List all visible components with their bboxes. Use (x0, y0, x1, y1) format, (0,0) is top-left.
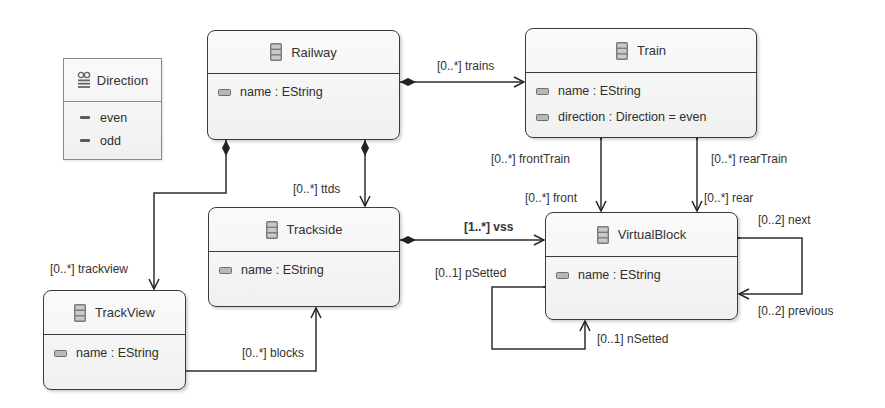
class-virtualblock[interactable]: VirtualBlock name : EString (545, 212, 738, 320)
class-railway[interactable]: Railway name : EString (207, 30, 400, 140)
class-attributes: name : EString (44, 335, 185, 365)
class-name: TrackView (95, 305, 155, 320)
label-ttds[interactable]: [0..*] ttds (293, 182, 340, 196)
label-psetted[interactable]: [0..1] pSetted (435, 266, 506, 280)
attribute-icon (536, 114, 549, 121)
attribute[interactable]: name : EString (54, 341, 185, 365)
enum-literals: even odd (64, 102, 161, 152)
label-vss[interactable]: [1..*] vss (464, 220, 513, 234)
class-attributes: name : EString (208, 74, 399, 104)
literal-icon (80, 139, 90, 142)
class-name: VirtualBlock (618, 227, 686, 242)
class-header: VirtualBlock (546, 213, 737, 257)
class-header: Railway (208, 31, 399, 74)
class-attributes: name : EString (546, 257, 737, 287)
attribute-icon (219, 267, 232, 274)
class-name: Trackside (287, 222, 343, 237)
enum-literal[interactable]: odd (76, 129, 161, 152)
class-trackside[interactable]: Trackside name : EString (208, 207, 400, 307)
class-attributes: name : EString (209, 252, 399, 282)
literal-icon (80, 116, 90, 119)
enum-header: Direction (64, 59, 161, 102)
attribute-icon (536, 88, 549, 95)
eclass-icon (74, 304, 86, 322)
class-header: Train (526, 29, 756, 73)
label-nsetted[interactable]: [0..1] nSetted (597, 332, 668, 346)
label-trackview[interactable]: [0..*] trackview (50, 262, 128, 276)
class-attributes: name : EString direction : Direction = e… (526, 73, 756, 129)
label-blocks[interactable]: [0..*] blocks (242, 346, 304, 360)
attribute[interactable]: name : EString (536, 79, 756, 103)
attribute[interactable]: direction : Direction = even (536, 105, 756, 129)
eclass-icon (616, 42, 628, 60)
label-reartrain[interactable]: [0..*] rearTrain (711, 152, 787, 166)
edge-blocks (186, 308, 316, 371)
edge-next-previous (739, 238, 802, 294)
label-front[interactable]: [0..*] front (525, 191, 577, 205)
class-header: Trackside (209, 208, 399, 252)
eclass-icon (270, 43, 282, 61)
attribute[interactable]: name : EString (556, 263, 737, 287)
attribute[interactable]: name : EString (218, 80, 399, 104)
attribute-icon (218, 89, 231, 96)
attribute[interactable]: name : EString (219, 258, 399, 282)
enum-literal[interactable]: even (76, 106, 161, 129)
label-previous[interactable]: [0..2] previous (758, 304, 833, 318)
enum-name: Direction (97, 73, 148, 88)
enum-direction[interactable]: Direction even odd (63, 58, 162, 160)
class-name: Railway (291, 45, 337, 60)
attribute-icon (54, 350, 67, 357)
eclass-icon (266, 221, 278, 239)
class-train[interactable]: Train name : EString direction : Directi… (525, 28, 757, 138)
class-header: TrackView (44, 291, 185, 335)
class-trackview[interactable]: TrackView name : EString (43, 290, 186, 390)
label-rear[interactable]: [0..*] rear (704, 191, 753, 205)
attribute-icon (556, 272, 569, 279)
eclass-icon (597, 226, 609, 244)
label-trains[interactable]: [0..*] trains (437, 59, 494, 73)
class-name: Train (637, 43, 666, 58)
enum-icon (77, 71, 91, 89)
label-fronttrain[interactable]: [0..*] frontTrain (491, 152, 570, 166)
label-next[interactable]: [0..2] next (758, 213, 811, 227)
